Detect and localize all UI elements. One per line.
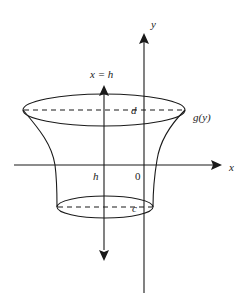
origin-label: 0 bbox=[135, 170, 141, 182]
axis-of-rotation bbox=[99, 85, 109, 261]
x-axis bbox=[14, 160, 222, 170]
bottom-ellipse bbox=[57, 196, 153, 218]
d-label: d bbox=[131, 104, 137, 116]
c-label: c bbox=[132, 202, 137, 214]
x-axis-label: x bbox=[228, 161, 234, 173]
y-axis bbox=[139, 33, 149, 293]
right-curve bbox=[153, 110, 185, 207]
solid-of-revolution-diagram: y x x = h h 0 d c g(y) bbox=[0, 0, 249, 307]
rotation-down-arrow-icon bbox=[99, 250, 109, 261]
y-axis-label: y bbox=[150, 18, 156, 30]
left-curve bbox=[23, 110, 57, 207]
h-tick-label: h bbox=[93, 170, 99, 182]
axis-of-rotation-label: x = h bbox=[89, 68, 114, 80]
g-of-y-label: g(y) bbox=[193, 111, 211, 124]
